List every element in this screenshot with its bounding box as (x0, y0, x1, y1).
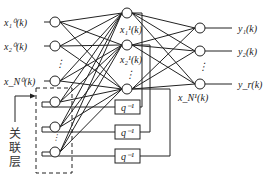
hidden-label: x₂¹(k) (119, 54, 143, 66)
input-node (50, 17, 60, 27)
network-svg: q⁻¹ q⁻¹ q⁻¹ x₁⁰(k) x₂⁰(k) x_N⁰(k) ⋮ ⋮ x₁… (0, 0, 272, 189)
context-arrow (15, 96, 33, 122)
output-label: y₁(k) (237, 23, 258, 35)
labels: x₁⁰(k) x₂⁰(k) x_N⁰(k) ⋮ ⋮ x₁¹(k) x₂¹(k) … (3, 17, 263, 169)
output-label: y₂(k) (237, 46, 258, 58)
context-label-char: 联 (9, 141, 21, 155)
context-node (50, 97, 60, 107)
hidden-node (122, 84, 132, 94)
output-node (195, 23, 205, 33)
input-label: x₂⁰(k) (3, 41, 28, 53)
ellipsis: ⋮ (125, 69, 135, 80)
elman-network-diagram: q⁻¹ q⁻¹ q⁻¹ x₁⁰(k) x₂⁰(k) x_N⁰(k) ⋮ ⋮ x₁… (0, 0, 272, 189)
delay-units: q⁻¹ q⁻¹ q⁻¹ (115, 100, 140, 163)
delay-label: q⁻¹ (121, 127, 134, 138)
ellipsis: ⋮ (198, 61, 208, 72)
arrow-head-icon (30, 94, 36, 99)
input-node (50, 76, 60, 86)
hidden-node (122, 8, 132, 18)
context-node (50, 122, 60, 132)
hidden-node (122, 40, 132, 50)
context-label-char: 关 (9, 127, 21, 141)
output-node (195, 46, 205, 56)
output-node (195, 79, 205, 89)
output-label: y_r(k) (237, 79, 263, 91)
context-node (50, 147, 60, 157)
hidden-label: x_N¹(k) (177, 92, 209, 104)
delay-label: q⁻¹ (121, 102, 134, 113)
input-label: x_N⁰(k) (3, 76, 36, 88)
input-node (50, 41, 60, 51)
input-label: x₁⁰(k) (3, 17, 28, 29)
delay-label: q⁻¹ (121, 151, 134, 162)
ellipsis: ⋮ (55, 58, 65, 69)
ellipsis: ⋮ (52, 133, 60, 142)
hidden-label: x₁¹(k) (119, 24, 143, 36)
context-label-char: 层 (9, 155, 21, 169)
